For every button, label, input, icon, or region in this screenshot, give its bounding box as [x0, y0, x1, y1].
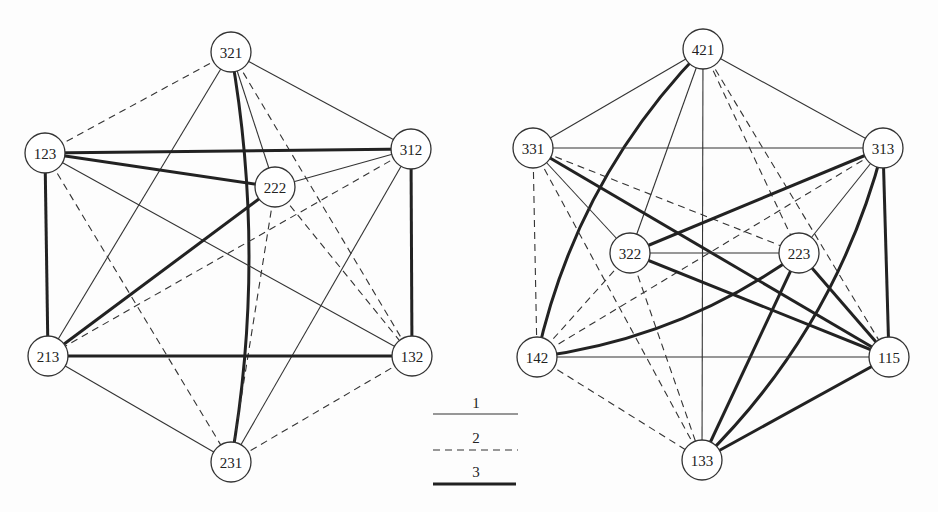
node-312: 312 [391, 129, 431, 169]
node-label: 223 [788, 246, 811, 262]
edge-322-115 [630, 253, 889, 357]
legend-label-3: 3 [472, 464, 480, 480]
edge-123-222 [45, 153, 275, 187]
node-321: 321 [211, 32, 251, 72]
edge-123-132 [45, 153, 412, 356]
edge-321-123 [45, 52, 231, 153]
graph-diagram: 321123312222213132231 421331313322223142… [0, 0, 938, 512]
edge-421-133 [702, 49, 703, 460]
legend-label-1: 1 [472, 395, 480, 411]
edge-331-142 [533, 148, 537, 357]
node-322: 322 [610, 233, 650, 273]
edge-213-231 [48, 356, 231, 462]
node-label: 313 [872, 141, 895, 157]
edge-312-132 [411, 149, 412, 356]
legend: 1 2 3 [433, 395, 518, 484]
node-label: 312 [400, 142, 423, 158]
node-142: 142 [517, 337, 557, 377]
node-115: 115 [869, 337, 909, 377]
node-421: 421 [683, 29, 723, 69]
edge-313-133 [702, 148, 883, 460]
edge-421-142 [537, 49, 703, 357]
edge-142-133 [537, 357, 702, 460]
node-label: 115 [878, 350, 900, 366]
node-331: 331 [513, 128, 553, 168]
node-231: 231 [211, 442, 251, 482]
legend-label-2: 2 [472, 430, 480, 446]
left-graph: 321123312222213132231 [25, 32, 432, 482]
node-222: 222 [255, 167, 295, 207]
edge-421-223 [703, 49, 799, 253]
edge-123-231 [45, 153, 231, 462]
node-313: 313 [863, 128, 903, 168]
edge-312-222 [275, 149, 411, 187]
edge-132-231 [231, 356, 412, 462]
node-label: 133 [691, 453, 714, 469]
node-label: 421 [692, 42, 715, 58]
edge-123-213 [45, 153, 48, 356]
node-132: 132 [392, 336, 432, 376]
edge-321-132 [231, 52, 412, 356]
edge-421-115 [703, 49, 889, 357]
node-label: 132 [401, 349, 424, 365]
node-label: 123 [34, 146, 57, 162]
node-label: 142 [526, 350, 549, 366]
edge-331-133 [533, 148, 702, 460]
node-label: 322 [619, 246, 642, 262]
edge-115-133 [702, 357, 889, 460]
edge-421-322 [630, 49, 703, 253]
edge-313-115 [883, 148, 889, 357]
node-223: 223 [779, 233, 819, 273]
edge-421-331 [533, 49, 703, 148]
node-label: 213 [37, 349, 60, 365]
node-133: 133 [682, 440, 722, 480]
node-123: 123 [25, 133, 65, 173]
node-label: 331 [522, 141, 545, 157]
right-graph: 421331313322223142115133 [513, 29, 909, 480]
node-label: 222 [264, 180, 287, 196]
node-213: 213 [28, 336, 68, 376]
node-label: 321 [220, 45, 243, 61]
edge-222-213 [48, 187, 275, 356]
edge-421-313 [703, 49, 883, 148]
edge-123-312 [45, 149, 411, 153]
node-label: 231 [220, 455, 243, 471]
edge-222-132 [275, 187, 412, 356]
